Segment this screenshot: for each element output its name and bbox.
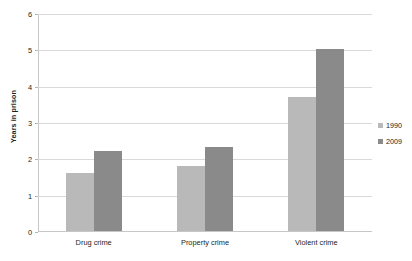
y-tick-label: 0 — [28, 228, 32, 237]
bar — [288, 97, 316, 231]
x-axis-tick-label: Violent crime — [295, 238, 338, 247]
legend-label: 1990 — [386, 121, 402, 130]
y-tick-mark — [35, 87, 38, 88]
bar — [316, 49, 344, 231]
bar — [66, 173, 94, 231]
y-tick-mark — [35, 196, 38, 197]
x-axis-line — [38, 231, 372, 232]
y-tick-mark — [35, 14, 38, 15]
bar-chart: Years in prison 0123456 Drug crimeProper… — [0, 0, 412, 261]
y-tick-label: 6 — [28, 10, 32, 19]
y-tick-label: 4 — [28, 82, 32, 91]
plot-area: 0123456 — [38, 14, 372, 232]
bar — [94, 151, 122, 231]
x-axis-tick-label: Drug crime — [76, 238, 112, 247]
legend-item[interactable]: 2009 — [378, 135, 412, 147]
bar — [177, 166, 205, 231]
gridline — [38, 14, 372, 15]
y-tick-label: 1 — [28, 191, 32, 200]
y-tick-label: 3 — [28, 119, 32, 128]
bar — [205, 147, 233, 231]
x-axis-tick-label: Property crime — [181, 238, 229, 247]
y-axis-title: Years in prison — [9, 57, 18, 177]
y-tick-label: 5 — [28, 46, 32, 55]
legend-swatch — [378, 139, 383, 144]
y-tick-mark — [35, 232, 38, 233]
y-tick-mark — [35, 50, 38, 51]
legend-item[interactable]: 1990 — [378, 119, 412, 131]
y-tick-mark — [35, 123, 38, 124]
y-tick-mark — [35, 159, 38, 160]
legend-swatch — [378, 123, 383, 128]
y-tick-label: 2 — [28, 155, 32, 164]
legend: 19902009 — [378, 119, 412, 151]
legend-label: 2009 — [386, 137, 402, 146]
